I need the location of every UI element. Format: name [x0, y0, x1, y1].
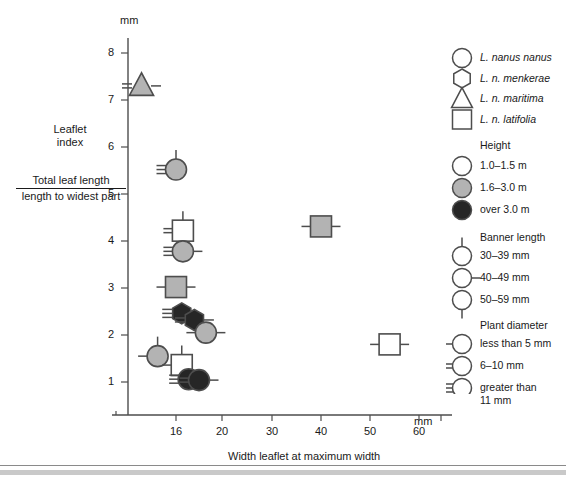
data-point [157, 277, 196, 298]
legend-taxon-label: L. nanus nanus [480, 51, 552, 63]
hexagon-outline-icon [454, 69, 470, 88]
marker-circle [166, 159, 187, 180]
legend-banner-title: Banner length [480, 231, 545, 243]
legend-diameter-label: 6–10 mm [480, 359, 524, 371]
x-tick-label: 50 [355, 425, 385, 437]
circle-one-line-icon [453, 335, 472, 354]
marker-triangle [129, 73, 153, 96]
marker-circle [172, 241, 193, 262]
marker-circle [147, 346, 168, 367]
marker-circle [189, 370, 210, 391]
legend-banner-label: 50–59 mm [480, 293, 530, 305]
data-point [302, 216, 341, 237]
legend-taxon-label: L. n. maritima [480, 92, 544, 104]
y-tick-label: 7 [96, 93, 114, 105]
x-tick-label: 60 [404, 425, 434, 437]
data-point [138, 337, 168, 367]
leaflet-index-scatter-figure: mm mm Leaflet index Total leaf length le… [0, 0, 566, 488]
circle-side-tick-icon [453, 269, 472, 288]
circle-bottom-tick-icon [453, 291, 472, 310]
data-point [163, 211, 193, 241]
legend-taxon-label: L. n. menkerae [480, 72, 550, 84]
y-tick-label: 4 [96, 234, 114, 246]
marker-square [311, 216, 332, 237]
circle-black-icon [453, 201, 472, 220]
marker-square [379, 334, 400, 355]
y-tick-label: 1 [96, 375, 114, 387]
circle-three-lines-icon [453, 379, 472, 395]
marker-square [166, 277, 187, 298]
x-tick-label: 16 [161, 425, 191, 437]
data-point [163, 241, 202, 262]
y-tick-label: 6 [96, 140, 114, 152]
footer-rule-thick [0, 470, 566, 475]
circle-top-tick-icon [453, 247, 472, 266]
legend-height-title: Height [480, 139, 510, 151]
x-tick-label: 20 [207, 425, 237, 437]
square-outline-icon [453, 110, 472, 129]
circle-two-lines-icon [453, 357, 472, 376]
legend-diameter-label: greater than [480, 381, 537, 393]
circle-white-icon [453, 157, 472, 176]
marker-circle [195, 322, 216, 343]
legend-banner-label: 40–49 mm [480, 271, 530, 283]
legend-height-label: 1.6–3.0 m [480, 181, 527, 193]
x-tick-label: 40 [306, 425, 336, 437]
data-point [370, 334, 409, 355]
footer-rule-thin [0, 465, 566, 466]
legend-diameter-title: Plant diameter [480, 319, 548, 331]
y-tick-label: 5 [96, 187, 114, 199]
circle-outline-icon [453, 49, 472, 68]
y-tick-label: 8 [96, 46, 114, 58]
legend-banner-label: 30–39 mm [480, 249, 530, 261]
triangle-outline-icon [452, 88, 473, 108]
data-point [157, 150, 187, 180]
circle-gray-icon [453, 179, 472, 198]
x-tick-label: 30 [257, 425, 287, 437]
legend-diameter-label-cont: 11 mm [480, 394, 511, 406]
legend-height-label: over 3.0 m [480, 203, 530, 215]
legend-height-label: 1.0–1.5 m [480, 159, 527, 171]
y-tick-label: 2 [96, 328, 114, 340]
legend-taxon-label: L. n. latifolia [480, 113, 536, 125]
y-tick-label: 3 [96, 281, 114, 293]
legend-diameter-label: less than 5 mm [480, 337, 551, 349]
marker-square [172, 220, 193, 241]
